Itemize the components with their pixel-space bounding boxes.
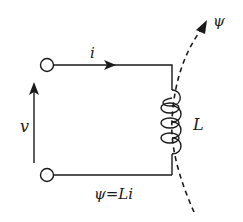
inductance-label: L: [192, 115, 204, 134]
voltage-label: v: [20, 117, 29, 136]
relation-label: ψ=Li: [94, 185, 133, 203]
voltage-arrow-icon: [29, 82, 39, 163]
top-terminal: [41, 59, 54, 72]
top-wire: [54, 65, 172, 90]
bottom-terminal: [41, 169, 54, 182]
current-label: i: [90, 44, 95, 62]
inductor-circuit-diagram: i v L ψ ψ=Li: [0, 0, 243, 222]
inductor-coil: [161, 90, 181, 175]
flux-label: ψ: [213, 12, 225, 30]
